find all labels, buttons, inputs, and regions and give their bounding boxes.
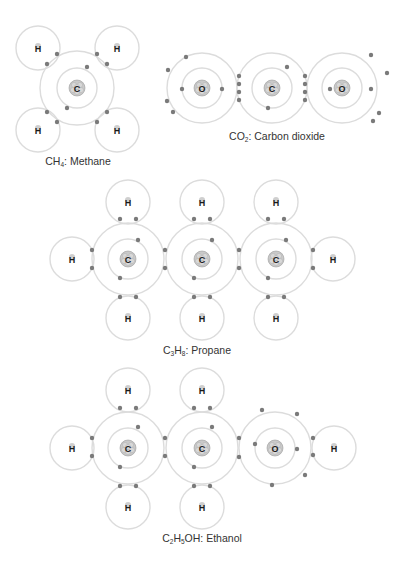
element-symbol: H (35, 126, 42, 136)
electron (136, 238, 140, 242)
element-symbol: H (125, 503, 132, 513)
electron (237, 98, 241, 102)
atom-h: H (106, 368, 150, 412)
electron (266, 217, 270, 221)
atom-o: O (239, 412, 311, 484)
electron (192, 465, 196, 469)
element-symbol: O (271, 444, 278, 454)
electron (134, 295, 138, 299)
electron (118, 484, 122, 488)
atom-h: H (106, 296, 150, 340)
element-symbol: H (331, 444, 338, 454)
electron (303, 74, 307, 78)
molecule-methane: CHHHH (16, 26, 139, 152)
electron (118, 217, 122, 221)
electron (90, 266, 94, 270)
element-symbol: H (125, 198, 132, 208)
atom-h: H (312, 426, 356, 470)
element-symbol: H (114, 44, 121, 54)
electron (163, 454, 167, 458)
molecule-diagrams: CHHHHOCOCCCHHHHHHHHCCOHHHHHH (0, 0, 399, 564)
element-symbol: H (69, 444, 76, 454)
electron (163, 436, 167, 440)
atom-c: C (92, 412, 164, 484)
element-symbol: H (35, 44, 42, 54)
electron (295, 447, 299, 451)
caption-methane: CH4: Methane (45, 156, 111, 169)
molecule-propane: CCCHHHHHHHH (50, 180, 355, 340)
caption-co2: CO2: Carbon dioxide (229, 131, 325, 144)
electron (55, 52, 59, 56)
atom-h: H (180, 368, 224, 412)
electron (95, 120, 99, 124)
electron (118, 295, 122, 299)
electron (237, 74, 241, 78)
electron (192, 295, 196, 299)
electron (295, 412, 299, 416)
electron (134, 406, 138, 410)
electron (180, 87, 184, 91)
electron (237, 455, 241, 459)
atom-c: C (166, 223, 238, 295)
electron (65, 106, 69, 110)
electron (118, 406, 122, 410)
atom-h: H (180, 180, 224, 224)
molecule-ethanol: CCOHHHHHH (50, 368, 356, 529)
element-symbol: C (199, 255, 206, 265)
electron (311, 453, 315, 457)
element-symbol: H (273, 314, 280, 324)
electron (285, 65, 289, 69)
electron (192, 406, 196, 410)
electron (253, 442, 257, 446)
electron (282, 295, 286, 299)
electron (192, 217, 196, 221)
electron (311, 436, 315, 440)
element-symbol: H (125, 386, 132, 396)
electron (369, 53, 373, 57)
atom-h: H (95, 108, 139, 152)
electron (166, 68, 170, 72)
atom-h: H (50, 237, 94, 281)
electron (192, 484, 196, 488)
electron (284, 238, 288, 242)
molecule-co2: OCO (165, 53, 389, 123)
electron (303, 473, 307, 477)
atom-h: H (254, 296, 298, 340)
element-symbol: H (330, 255, 337, 265)
atom-h: H (106, 485, 150, 529)
electron (163, 266, 167, 270)
electron (85, 65, 89, 69)
element-symbol: H (114, 126, 121, 136)
electron (237, 266, 241, 270)
electron (118, 276, 122, 280)
atom-o: O (167, 53, 237, 123)
electron (55, 120, 59, 124)
electron (105, 62, 109, 66)
electron (369, 87, 373, 91)
atom-o: O (307, 53, 377, 123)
element-symbol: C (269, 84, 276, 94)
atom-h: H (311, 237, 355, 281)
electron (377, 111, 381, 115)
electron (266, 106, 270, 110)
molecule-name: : Ethanol (200, 532, 241, 544)
electron (90, 248, 94, 252)
electron (210, 238, 214, 242)
caption-propane: C3H8: Propane (163, 345, 231, 358)
element-symbol: H (69, 255, 76, 265)
element-symbol: C (125, 255, 132, 265)
element-symbol: C (125, 444, 132, 454)
electron (134, 217, 138, 221)
electron (45, 62, 49, 66)
element-symbol: O (198, 84, 205, 94)
electron (184, 55, 188, 59)
atom-c: C (92, 223, 164, 295)
electron (270, 483, 274, 487)
electron (95, 52, 99, 56)
electron (208, 406, 212, 410)
electron (260, 408, 264, 412)
electron (165, 99, 169, 103)
electron (171, 110, 175, 114)
atom-h: H (16, 108, 60, 152)
electron (134, 484, 138, 488)
